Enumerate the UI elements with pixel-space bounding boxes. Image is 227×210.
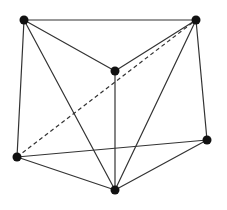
edge-D-B-dashed <box>17 20 196 157</box>
vertex-left <box>13 153 22 162</box>
edge-D-E <box>17 140 207 157</box>
vertex-center <box>111 67 120 76</box>
edge-B-E <box>196 20 207 140</box>
edge-A-D <box>17 20 24 157</box>
graph-diagram <box>0 0 227 210</box>
vertex-right <box>203 136 212 145</box>
vertex-top-left <box>20 16 29 25</box>
vertex-bottom <box>111 186 120 195</box>
vertices-layer <box>13 16 212 195</box>
edges-layer <box>17 20 207 190</box>
vertex-top-right <box>192 16 201 25</box>
